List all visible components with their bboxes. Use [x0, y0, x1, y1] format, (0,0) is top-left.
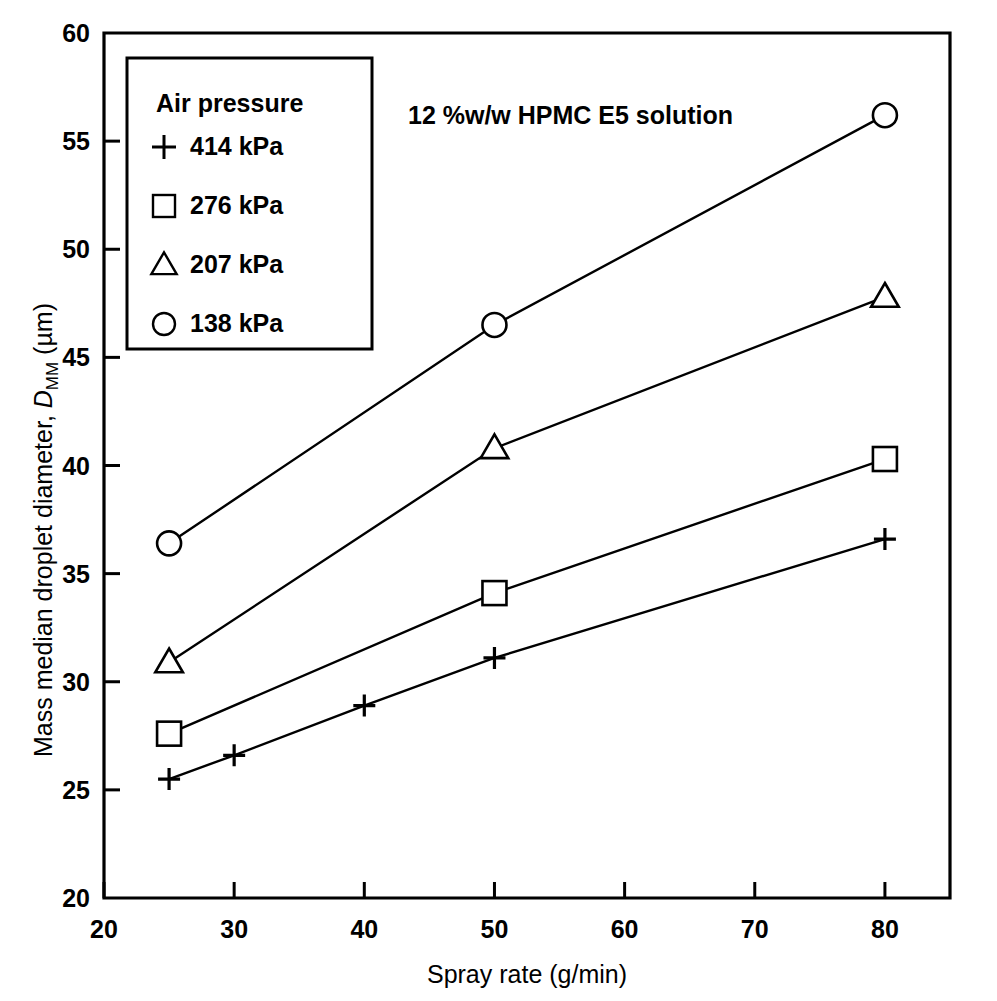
y-tick-label-35: 35 [62, 560, 90, 588]
data-point-square [482, 581, 506, 605]
chart-figure: 20304050607080 202530354045505560 12 %w/… [0, 0, 997, 1001]
legend-marker-circle-icon [153, 313, 175, 335]
y-tick-label-30: 30 [62, 668, 90, 696]
data-point-circle [157, 531, 181, 555]
x-axis-title: Spray rate (g/min) [427, 960, 627, 988]
legend-label: 414 kPa [190, 132, 284, 160]
y-axis-title-subscript: MM [43, 362, 62, 390]
x-tick-label-70: 70 [741, 915, 769, 943]
data-point-circle [873, 103, 897, 127]
y-tick-label-60: 60 [62, 19, 90, 47]
legend-label: 207 kPa [190, 250, 284, 278]
x-tick-label-30: 30 [220, 915, 248, 943]
y-tick-label-55: 55 [62, 127, 90, 155]
x-tick-label-80: 80 [871, 915, 899, 943]
legend-marker-square-icon [153, 195, 175, 217]
y-tick-label-50: 50 [62, 235, 90, 263]
legend-entry-276-kpa[interactable]: 276 kPa [153, 191, 284, 219]
legend-title: Air pressure [156, 89, 303, 117]
y-axis-title-symbol: D [29, 390, 57, 408]
data-point-square [157, 722, 181, 746]
y-tick-label-25: 25 [62, 776, 90, 804]
data-point-square [873, 447, 897, 471]
x-tick-label-20: 20 [90, 915, 118, 943]
y-axis-title-lead: Mass median droplet diameter, [29, 408, 57, 757]
x-tick-label-40: 40 [350, 915, 378, 943]
plot-annotation: 12 %w/w HPMC E5 solution [408, 101, 733, 129]
y-axis-title-units: (µm) [29, 303, 57, 362]
legend-label: 138 kPa [190, 309, 284, 337]
x-tick-label-50: 50 [481, 915, 509, 943]
legend-label: 276 kPa [190, 191, 284, 219]
y-tick-label-20: 20 [62, 884, 90, 912]
line-chart: 20304050607080 202530354045505560 12 %w/… [0, 0, 997, 1001]
y-axis-tick-labels: 202530354045505560 [62, 19, 90, 912]
legend[interactable]: Air pressure 414 kPa276 kPa207 kPa138 kP… [127, 58, 372, 349]
y-tick-label-40: 40 [62, 452, 90, 480]
x-tick-label-60: 60 [611, 915, 639, 943]
y-tick-label-45: 45 [62, 343, 90, 371]
data-point-circle [482, 313, 506, 337]
